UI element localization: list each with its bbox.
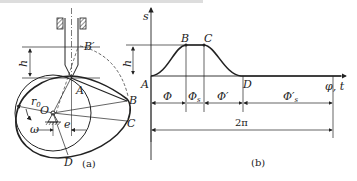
h-label-a: h — [17, 60, 30, 67]
trace-arc-dashed — [80, 46, 128, 96]
interval-label-phi-prime: Φ′ — [217, 90, 229, 103]
label-d: D — [63, 156, 73, 169]
label-b: B — [128, 94, 137, 107]
label-e: e — [64, 118, 71, 131]
label-o: O — [40, 104, 49, 117]
label-r0: r0 — [31, 95, 41, 109]
panel-a-cam-mechanism: h B′ e ω — [15, 8, 137, 169]
omega-rotation-arrow — [26, 109, 31, 120]
label-b-curve: B — [180, 32, 189, 45]
guide-bearing-right — [80, 18, 86, 29]
interval-label-phi-s: Φs — [188, 90, 201, 104]
h-label-b: h — [121, 60, 134, 67]
guide-bearing-left — [57, 18, 63, 29]
cam-diagram: h B′ e ω — [0, 0, 357, 181]
displacement-curve — [151, 45, 341, 76]
label-omega: ω — [30, 123, 39, 136]
s-axis-label: s — [143, 10, 149, 23]
panel-b-displacement-diagram: s φ, t h B C A D Φ Φs Φ′ Φ′s 2π (b — [121, 8, 346, 168]
label-a: A — [75, 84, 84, 97]
label-a-curve: A — [140, 78, 149, 91]
interval-label-phi: Φ — [163, 90, 172, 103]
label-d-curve: D — [242, 78, 252, 91]
caption-a: (a) — [82, 158, 96, 169]
phi-axis-label: φ, t — [325, 80, 345, 93]
interval-label-phi-prime-s: Φ′s — [283, 90, 299, 104]
total-period-label: 2π — [235, 117, 248, 128]
label-b-prime: B′ — [83, 40, 95, 53]
line-o-to-a — [53, 78, 71, 113]
label-c-curve: C — [204, 32, 213, 45]
caption-b: (b) — [251, 157, 265, 168]
label-c: C — [127, 117, 136, 130]
